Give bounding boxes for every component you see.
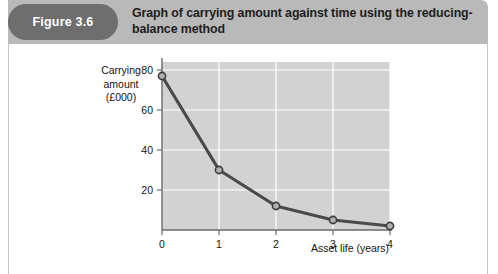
x-tick-label: 0 <box>159 238 165 250</box>
data-point-marker <box>215 166 222 173</box>
figure-banner: Figure 3.6 Graph of carrying amount agai… <box>8 0 488 44</box>
y-tick-label: 20 <box>141 184 153 196</box>
data-point-marker <box>272 202 279 209</box>
y-tick-label: 80 <box>141 64 153 76</box>
y-tick-label: 60 <box>141 104 153 116</box>
figure-container: Figure 3.6 Graph of carrying amount agai… <box>0 0 498 274</box>
figure-title: Graph of carrying amount against time us… <box>132 6 480 37</box>
y-tick-label: 40 <box>141 144 153 156</box>
x-tick-label: 2 <box>273 238 279 250</box>
x-tick-label: 1 <box>216 238 222 250</box>
x-axis-ticks <box>162 230 390 235</box>
data-point-marker <box>329 216 336 223</box>
chart-area: Carrying amount (£000) Asset life (years… <box>0 44 498 274</box>
data-point-marker <box>386 222 393 229</box>
figure-number-pill: Figure 3.6 <box>8 4 118 40</box>
x-tick-label: 3 <box>330 238 336 250</box>
y-tick-labels: 20406080 <box>141 64 153 196</box>
data-point-marker <box>158 72 165 79</box>
figure-number-label: Figure 3.6 <box>32 15 93 29</box>
plot-svg: 20406080 01234 <box>0 44 498 274</box>
x-tick-labels: 01234 <box>159 238 393 250</box>
y-axis-ticks <box>157 70 162 190</box>
x-tick-label: 4 <box>387 238 393 250</box>
